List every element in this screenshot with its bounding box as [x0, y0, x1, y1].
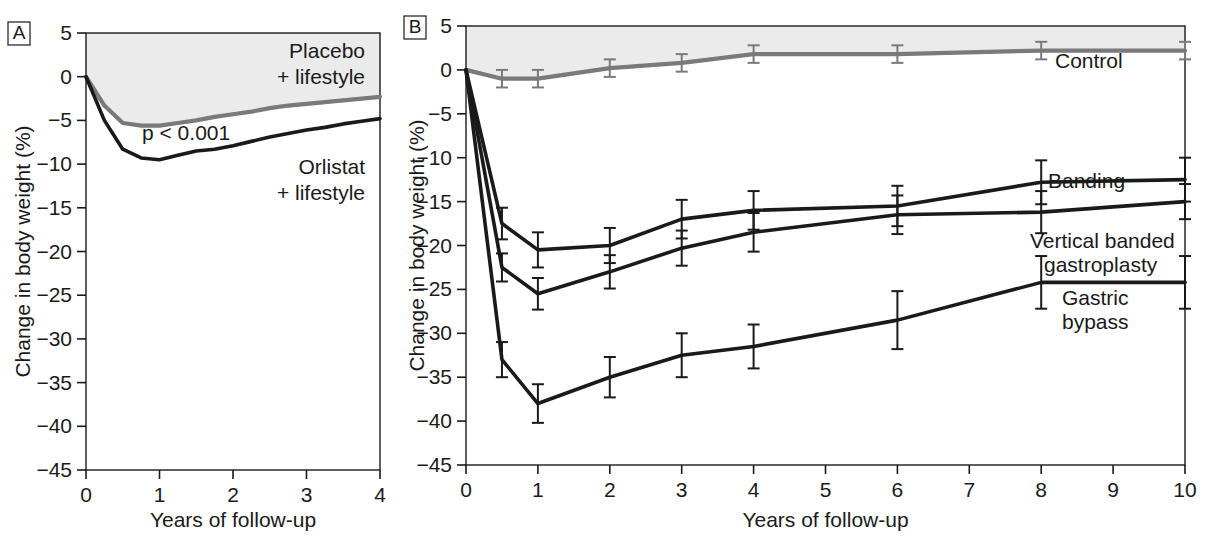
x-tick-label-B-3: 3	[676, 478, 688, 501]
y-tick-label-A-8: −35	[36, 371, 72, 394]
x-tick-label-B-6: 6	[892, 478, 904, 501]
y-tick-label-A-4: −15	[36, 196, 72, 219]
x-tick-label-B-10: 10	[1173, 478, 1196, 501]
panel-letter-B: B	[409, 16, 422, 37]
y-axis-title-B: Change in body weight (%)	[405, 119, 428, 371]
x-tick-label-B-8: 8	[1035, 478, 1047, 501]
x-tick-label-B-5: 5	[820, 478, 832, 501]
y-tick-label-A-9: −40	[36, 414, 72, 437]
series-label-control: Control	[1055, 49, 1123, 72]
y-tick-label-A-5: −20	[36, 240, 72, 263]
y-tick-label-A-6: −25	[36, 283, 72, 306]
series-label-vbg-line2: gastroplasty	[1044, 253, 1158, 276]
y-tick-label-B-0: 5	[440, 14, 452, 37]
series-label-banding: Banding	[1048, 169, 1125, 192]
x-axis-title-B: Years of follow-up	[742, 508, 908, 531]
series-label-placebo-line1: Placebo	[289, 39, 365, 62]
y-tick-label-A-1: 0	[60, 65, 72, 88]
x-tick-label-A-3: 3	[301, 483, 313, 506]
series-label-bypass-line2: bypass	[1062, 310, 1129, 333]
y-tick-label-B-1: 0	[440, 58, 452, 81]
x-tick-label-B-4: 4	[748, 478, 760, 501]
figure-container: A50−5−10−15−20−25−30−35−40−4501234Years …	[0, 0, 1216, 544]
x-tick-label-B-0: 0	[460, 478, 472, 501]
y-tick-label-B-9: −40	[416, 409, 452, 432]
two-panel-weight-change-chart: A50−5−10−15−20−25−30−35−40−4501234Years …	[0, 0, 1216, 544]
y-tick-label-A-2: −5	[48, 108, 72, 131]
series-label-orlistat-line1: Orlistat	[298, 155, 365, 178]
x-tick-label-B-9: 9	[1107, 478, 1119, 501]
p-value-annotation: p < 0.001	[142, 121, 230, 144]
panel-letter-A: A	[13, 22, 26, 43]
y-tick-label-A-7: −30	[36, 327, 72, 350]
y-tick-label-A-0: 5	[60, 21, 72, 44]
series-label-vbg-line1: Vertical banded	[1030, 229, 1175, 252]
series-label-orlistat-line2: + lifestyle	[277, 181, 365, 204]
series-label-placebo-line2: + lifestyle	[277, 65, 365, 88]
x-tick-label-A-0: 0	[80, 483, 92, 506]
y-tick-label-B-10: −45	[416, 453, 452, 476]
x-tick-label-B-2: 2	[604, 478, 616, 501]
x-tick-label-A-2: 2	[227, 483, 239, 506]
y-tick-label-B-2: −5	[428, 102, 452, 125]
x-tick-label-A-4: 4	[374, 483, 386, 506]
y-tick-label-A-3: −10	[36, 152, 72, 175]
series-label-bypass-line1: Gastric	[1062, 286, 1129, 309]
y-tick-label-A-10: −45	[36, 458, 72, 481]
x-axis-title-A: Years of follow-up	[150, 508, 316, 531]
x-tick-label-B-7: 7	[963, 478, 975, 501]
y-axis-title-A: Change in body weight (%)	[11, 125, 34, 377]
x-tick-label-B-1: 1	[532, 478, 544, 501]
x-tick-label-A-1: 1	[154, 483, 166, 506]
